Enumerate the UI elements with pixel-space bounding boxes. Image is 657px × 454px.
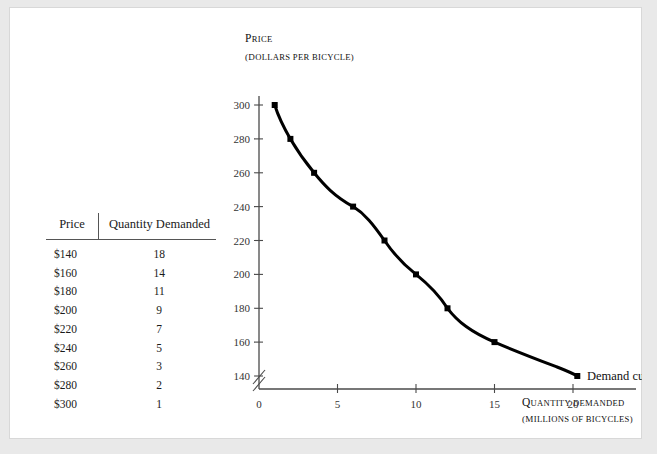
table-row: $180 11 [46,282,216,301]
demand-curve-series [272,102,581,379]
cell-price: $180 [46,282,98,301]
cell-price: $260 [46,357,98,376]
y-ticklabel-160: 160 [234,336,251,348]
table-row: $220 7 [46,320,216,339]
chart-svg: PRICE (DOLLARS PER BICYCLE) QUANTITY DEM… [232,16,642,436]
cell-quantity: 2 [98,376,216,395]
cell-quantity: 14 [98,264,216,283]
cell-quantity: 5 [98,339,216,358]
y-ticklabel-300: 300 [234,99,251,111]
x-ticklabel-15: 15 [489,398,501,410]
cell-price: $280 [46,376,98,395]
y-axis-title: PRICE [245,32,272,44]
cell-quantity: 7 [98,320,216,339]
data-point-11-180 [445,305,451,311]
cell-price: $160 [46,264,98,283]
table-row: $160 14 [46,264,216,283]
table-row: $300 1 [46,395,216,414]
data-point-1-300 [272,102,278,108]
table-body: $140 18 $160 14 $180 11 $200 9 $220 7 [46,240,216,414]
x-ticklabel-20: 20 [568,398,580,410]
data-point-14-160 [492,339,498,345]
demand-curve-line [275,105,578,376]
y-ticklabel-200: 200 [234,268,251,280]
cell-price: $140 [46,240,98,264]
data-point-9-200 [413,271,419,277]
y-ticklabel-220: 220 [234,235,251,247]
data-point-7-220 [382,238,388,244]
y-ticklabel-280: 280 [234,133,251,145]
cell-quantity: 9 [98,301,216,320]
data-point-2-280 [287,136,293,142]
x-ticklabel-0: 0 [256,398,262,410]
table: Price Quantity Demanded $140 18 $160 14 … [46,213,216,413]
cell-quantity: 3 [98,357,216,376]
figure-card: Price Quantity Demanded $140 18 $160 14 … [9,7,642,439]
x-ticklabel-5: 5 [335,398,341,410]
cell-price: $300 [46,395,98,414]
cell-price: $220 [46,320,98,339]
y-axis-subtitle: (DOLLARS PER BICYCLE) [245,52,354,62]
table-row: $280 2 [46,376,216,395]
data-point-18-140 [574,373,580,379]
demand-schedule-table: Price Quantity Demanded $140 18 $160 14 … [46,213,216,413]
table-row: $140 18 [46,240,216,264]
demand-curve-label: Demand curve [587,369,642,383]
y-ticklabel-240: 240 [234,201,251,213]
table-row: $240 5 [46,339,216,358]
cell-quantity: 1 [98,395,216,414]
y-ticklabel-260: 260 [234,167,251,179]
demand-curve-chart: PRICE (DOLLARS PER BICYCLE) QUANTITY DEM… [232,16,642,436]
data-point-3-260 [311,170,317,176]
x-ticklabel-10: 10 [411,398,423,410]
cell-quantity: 18 [98,240,216,264]
data-point-5-240 [350,204,356,210]
table-row: $200 9 [46,301,216,320]
table-head: Price Quantity Demanded [46,213,216,240]
y-ticklabel-180: 180 [234,302,251,314]
table-row: $260 3 [46,357,216,376]
x-axis-subtitle: (MILLIONS OF BICYCLES) [522,414,633,424]
table-header-row: Price Quantity Demanded [46,213,216,240]
cell-price: $200 [46,301,98,320]
cell-quantity: 11 [98,282,216,301]
column-header-price: Price [46,213,98,240]
cell-price: $240 [46,339,98,358]
y-ticklabel-140: 140 [234,370,251,382]
column-header-quantity: Quantity Demanded [98,213,216,240]
